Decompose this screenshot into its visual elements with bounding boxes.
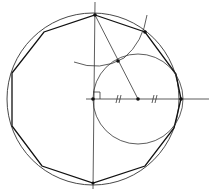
point-bottom-vertex bbox=[92, 182, 95, 185]
point-second-vertex bbox=[143, 30, 147, 34]
point-center bbox=[91, 97, 95, 101]
point-intersection bbox=[116, 59, 120, 63]
point-top-vertex bbox=[93, 13, 97, 17]
decagon-construction-diagram bbox=[0, 0, 209, 190]
point-midpoint bbox=[136, 97, 140, 101]
construction-arc bbox=[74, 15, 147, 66]
diagram-canvas bbox=[0, 0, 209, 190]
point-right-end bbox=[179, 97, 183, 101]
